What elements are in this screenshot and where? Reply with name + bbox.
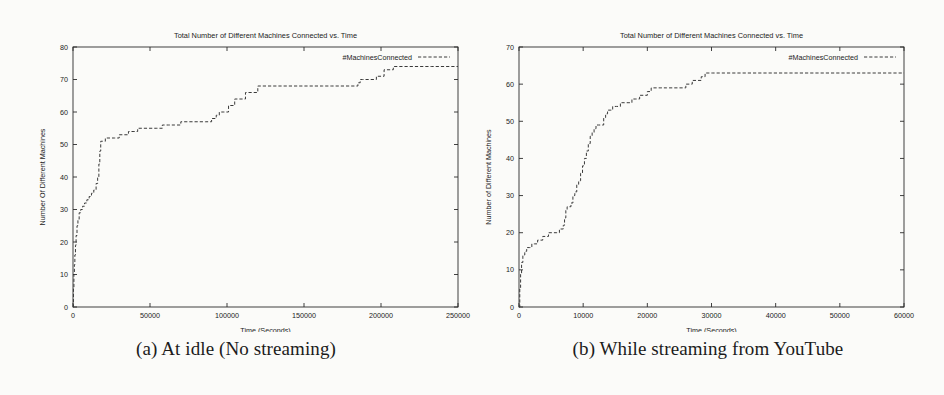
x-tick-label: 50000 bbox=[140, 311, 160, 320]
data-series-line bbox=[73, 67, 458, 308]
y-tick-label: 50 bbox=[506, 117, 514, 126]
x-tick-label: 150000 bbox=[292, 311, 316, 320]
chart-b: Total Number of Different Machines Conne… bbox=[472, 0, 944, 332]
y-tick-label: 30 bbox=[60, 205, 68, 214]
x-tick-label: 40000 bbox=[766, 311, 786, 320]
y-tick-label: 60 bbox=[60, 108, 68, 117]
y-tick-label: 0 bbox=[510, 303, 514, 312]
chart-title: Total Number of Different Machines Conne… bbox=[174, 31, 357, 40]
chart-a: Total Number of Different Machines Conne… bbox=[0, 0, 472, 332]
x-tick-label: 200000 bbox=[369, 311, 393, 320]
x-tick-label: 250000 bbox=[446, 311, 470, 320]
legend-label: #MachinesConnected bbox=[788, 53, 858, 62]
y-tick-label: 20 bbox=[60, 238, 68, 247]
data-series-line bbox=[519, 73, 904, 307]
y-tick-label: 70 bbox=[60, 75, 68, 84]
y-tick-label: 20 bbox=[506, 228, 514, 237]
plot-border bbox=[519, 47, 904, 307]
y-tick-label: 60 bbox=[506, 80, 514, 89]
y-tick-label: 10 bbox=[60, 270, 68, 279]
y-tick-label: 50 bbox=[60, 140, 68, 149]
x-tick-label: 0 bbox=[71, 311, 75, 320]
subfigure-b: Total Number of Different Machines Conne… bbox=[472, 0, 944, 395]
subfigure-b-caption: (b) While streaming from YouTube bbox=[472, 338, 944, 360]
figure-row: Total Number of Different Machines Conne… bbox=[0, 0, 944, 395]
y-tick-label: 30 bbox=[506, 191, 514, 200]
x-tick-label: 20000 bbox=[637, 311, 657, 320]
x-axis-label: Time (Seconds) bbox=[240, 326, 290, 332]
x-tick-label: 100000 bbox=[215, 311, 239, 320]
x-tick-label: 30000 bbox=[702, 311, 722, 320]
subfigure-a-caption: (a) At idle (No streaming) bbox=[0, 338, 472, 360]
y-tick-label: 70 bbox=[506, 43, 514, 52]
y-tick-label: 80 bbox=[60, 43, 68, 52]
y-axis-label: Number Of Different Machines bbox=[38, 128, 47, 225]
x-tick-label: 60000 bbox=[894, 311, 914, 320]
y-tick-label: 40 bbox=[60, 173, 68, 182]
chart-b-svg: Total Number of Different Machines Conne… bbox=[472, 0, 944, 332]
x-tick-label: 0 bbox=[517, 311, 521, 320]
y-tick-label: 40 bbox=[506, 154, 514, 163]
legend-label: #MachinesConnected bbox=[342, 53, 412, 62]
y-tick-label: 0 bbox=[64, 303, 68, 312]
y-axis-label: Number of Different Machines bbox=[484, 129, 493, 225]
x-tick-label: 10000 bbox=[573, 311, 593, 320]
x-tick-label: 50000 bbox=[830, 311, 850, 320]
y-tick-label: 10 bbox=[506, 265, 514, 274]
chart-title: Total Number of Different Machines Conne… bbox=[620, 31, 803, 40]
chart-a-svg: Total Number of Different Machines Conne… bbox=[0, 0, 472, 332]
subfigure-a: Total Number of Different Machines Conne… bbox=[0, 0, 472, 395]
x-axis-label: Time (Seconds) bbox=[686, 326, 736, 332]
